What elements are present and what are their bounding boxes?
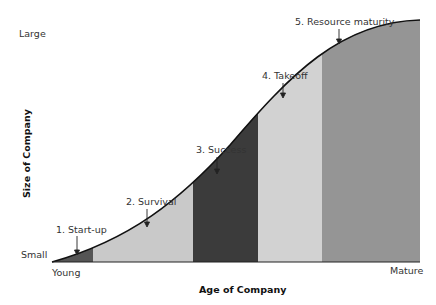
stage-label-survival: 2. Survival (126, 196, 176, 207)
y-tick-small: Small (21, 249, 47, 260)
stage-label-startup: 1. Start-up (56, 224, 107, 235)
x-axis-title: Age of Company (199, 284, 287, 295)
stage-label-success: 3. Success (196, 144, 246, 155)
stage-takeoff-area (258, 0, 322, 262)
y-axis-title: Size of Company (21, 108, 32, 198)
stage-survival-area (93, 0, 193, 262)
stage-startup-area (52, 0, 93, 262)
stage-label-takeoff: 4. Takeoff (262, 70, 308, 81)
stage-label-maturity: 5. Resource maturity (295, 16, 395, 27)
stage-success-area (193, 0, 258, 262)
y-tick-large: Large (19, 28, 46, 39)
x-tick-young: Young (51, 267, 80, 278)
growth-stages-diagram: 1. Start-up 2. Survival 3. Success 4. Ta… (0, 0, 436, 305)
x-tick-mature: Mature (390, 265, 423, 276)
